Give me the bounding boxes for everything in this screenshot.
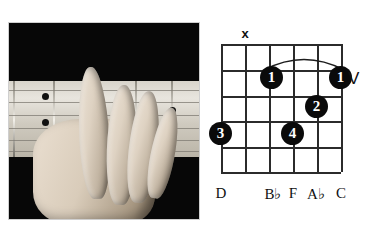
- finger-number: 4: [289, 126, 297, 141]
- note-label-f: F: [289, 185, 297, 202]
- note-label-d: D: [216, 185, 227, 202]
- fret-line-0: [221, 44, 341, 46]
- muted-string-x-icon: x: [241, 26, 248, 41]
- finger-number: 1: [268, 70, 276, 85]
- finger-number: 1: [337, 70, 345, 85]
- string-line-2: [245, 44, 247, 172]
- fret-line-5: [221, 172, 341, 174]
- string-line-1: [221, 44, 223, 172]
- note-label-bb: B♭: [264, 185, 281, 203]
- finger-dot-1a[interactable]: 1: [260, 66, 283, 89]
- fret-line-4: [221, 147, 341, 149]
- fret-line-3: [221, 121, 341, 123]
- chord-diagram: x 1 1 2 3 4 V D B♭ F A♭ C: [0, 0, 369, 240]
- note-label-ab: A♭: [307, 185, 325, 203]
- note-label-c: C: [336, 185, 346, 202]
- finger-number: 3: [217, 126, 225, 141]
- finger-dot-4[interactable]: 4: [281, 122, 304, 145]
- fret-position-marker: V: [348, 69, 359, 89]
- finger-number: 2: [313, 99, 321, 114]
- finger-dot-3[interactable]: 3: [209, 122, 232, 145]
- finger-dot-2[interactable]: 2: [305, 95, 328, 118]
